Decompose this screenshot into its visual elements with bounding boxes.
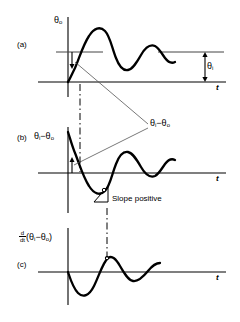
panel-b-error-arrow-head: [70, 157, 75, 162]
panel-tag-a: (a): [17, 41, 27, 49]
panel-tag-c: (c): [17, 261, 26, 269]
panel-a-x-axis-label: t: [216, 84, 219, 92]
theta-o-subscript: o: [59, 19, 62, 25]
callout-theta-o-sub: o: [167, 122, 170, 128]
theta-o-subscript-b: o: [51, 135, 54, 141]
panel-a-group: [38, 17, 226, 124]
panel-c-x-axis-label: t: [216, 274, 219, 282]
minus-theta-o-symbol-b: −θ: [40, 131, 50, 141]
derivative-minus-theta-o: −θ: [35, 232, 45, 242]
figure-canvas: [0, 0, 240, 322]
panel-a-y-axis-label: θo: [54, 16, 62, 25]
panel-b-y-axis-label: θi−θo: [34, 132, 54, 141]
figure-root: (a) (b) (c) θo t θi θi−θo t θi−θo Slope …: [0, 0, 240, 322]
panel-b-x-axis-label: t: [216, 175, 219, 183]
panel-tag-b: (b): [17, 134, 27, 142]
slope-positive-label: Slope positive: [112, 195, 162, 203]
derivative-denominator: dt: [19, 237, 26, 243]
derivative-numerator: d: [19, 230, 26, 237]
panel-a-theta-i-arrow-head-down: [202, 77, 207, 82]
derivative-fraction: d dt: [19, 230, 26, 244]
input-amplitude-label: θi: [207, 62, 213, 71]
derivative-open-theta-i: (θ: [26, 232, 34, 242]
construction-lines: [80, 84, 107, 258]
leader-line-to-panel-a: [75, 62, 148, 124]
panel-c-y-axis-label: d dt (θi−θo): [19, 230, 52, 244]
slope-tangent-point: [102, 188, 105, 191]
theta-i-subscript: i: [212, 65, 213, 71]
panel-a-output-curve: [68, 28, 175, 82]
callout-minus-theta-o: −θ: [156, 118, 166, 128]
error-callout-label: θi−θo: [150, 119, 170, 128]
panel-c-derivative-curve: [68, 257, 160, 296]
panel-c-group: [38, 228, 226, 305]
panel-a-theta-i-arrow-head-up: [202, 52, 207, 57]
derivative-close-paren: ): [49, 232, 52, 242]
